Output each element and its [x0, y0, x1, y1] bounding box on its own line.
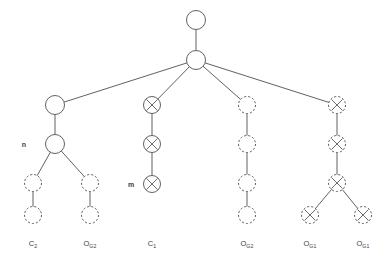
solid-circle-icon: [187, 51, 206, 70]
leaf-c1: C1: [148, 240, 156, 248]
tree-node-crossed[interactable]: [144, 136, 161, 153]
tree-edge: [342, 190, 357, 209]
tree-node-crossed[interactable]: [302, 207, 319, 224]
tree-node[interactable]: [46, 96, 65, 115]
leaf-og1b: OG1: [357, 240, 370, 248]
leaf-label-subscript: 1: [153, 243, 156, 249]
tree-node[interactable]: [25, 175, 42, 192]
tree-node-crossed[interactable]: [355, 207, 372, 224]
leaf-og2a: OG2: [84, 240, 97, 248]
tree-graphic: [0, 0, 388, 262]
tree-diagram: nmC2OG2C1OG2OG1OG1: [0, 0, 388, 262]
solid-circle-icon: [187, 11, 206, 30]
node-layer: [25, 11, 372, 224]
leaf-og2b: OG2: [241, 240, 254, 248]
leaf-label-subscript: G1: [309, 243, 316, 249]
leaf-label-subscript: G2: [89, 243, 96, 249]
tree-node-crossed[interactable]: [329, 136, 346, 153]
tree-node[interactable]: [239, 136, 256, 153]
dashed-circle-icon: [25, 207, 42, 224]
leaf-c2: C2: [29, 240, 37, 248]
tree-edge: [61, 151, 84, 177]
solid-circle-icon: [46, 96, 65, 115]
tree-node[interactable]: [187, 51, 206, 70]
tree-node-crossed[interactable]: [329, 175, 346, 192]
dashed-circle-icon: [239, 97, 256, 114]
tree-edge: [64, 63, 187, 102]
dashed-circle-icon: [82, 207, 99, 224]
tree-edge: [158, 67, 189, 99]
dashed-circle-icon: [239, 136, 256, 153]
tree-node-crossed[interactable]: [144, 97, 161, 114]
leaf-label-subscript: G1: [362, 243, 369, 249]
tree-edge: [37, 152, 50, 175]
label-m: m: [128, 181, 134, 188]
dashed-circle-icon: [25, 175, 42, 192]
tree-node[interactable]: [239, 207, 256, 224]
leaf-label-base: O: [241, 239, 247, 248]
solid-circle-icon: [46, 135, 65, 154]
dashed-circle-icon: [82, 175, 99, 192]
tree-node[interactable]: [82, 175, 99, 192]
tree-node[interactable]: [25, 207, 42, 224]
tree-node-crossed[interactable]: [144, 176, 161, 193]
tree-node[interactable]: [239, 175, 256, 192]
leaf-label-subscript: 2: [34, 243, 37, 249]
tree-edge: [203, 66, 241, 99]
label-n: n: [22, 141, 26, 148]
leaf-label-base: O: [84, 239, 90, 248]
leaf-label-base: O: [357, 239, 363, 248]
leaf-label-base: O: [304, 239, 310, 248]
leaf-og1a: OG1: [304, 240, 317, 248]
tree-node[interactable]: [46, 135, 65, 154]
leaf-label-subscript: G2: [246, 243, 253, 249]
tree-edge: [315, 190, 331, 209]
tree-node[interactable]: [239, 97, 256, 114]
tree-node-crossed[interactable]: [329, 97, 346, 114]
tree-edge: [205, 63, 329, 103]
tree-node[interactable]: [82, 207, 99, 224]
tree-node[interactable]: [187, 11, 206, 30]
dashed-circle-icon: [239, 175, 256, 192]
dashed-circle-icon: [239, 207, 256, 224]
